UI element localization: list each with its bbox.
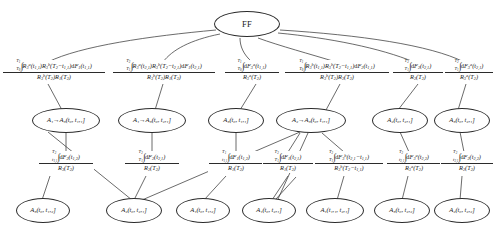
node-a1-to-a3-t0-t11[interactable]: A₁→A₃(t₀, t₁,₁] [32, 108, 100, 133]
edge-label-f1: T1T0∫R3a(t1,1)R3b(T2−t1,1)dF1(t1,1) R3b(… [2, 60, 106, 82]
node-label: A₁→A₃(t₀, t₁,₁] [47, 117, 85, 124]
fraction-denominator: R3a(T2) [387, 164, 441, 173]
node-a3-t0-t12[interactable]: A₃(t₀, t₁,₂] [16, 198, 70, 223]
fraction-denominator: R3(T2) [39, 164, 93, 173]
fraction-numerator: T1T0∫dF3a(t1,1) [225, 60, 279, 73]
edge-label-g2: T2T1∫dF2(t2,1) R2(T2) [124, 151, 180, 173]
fraction-denominator: R2(T2) [125, 164, 179, 173]
edge-g2-to-b2 [134, 176, 146, 200]
node-label: A₂→A₃(t₀, t₁,₁] [292, 117, 330, 124]
edge-n6-to-g7 [460, 132, 464, 152]
fraction-denominator: R2(T2) [441, 164, 493, 173]
edge-g3-to-b3 [204, 176, 226, 200]
node-label: A₂(t₀, t₂,₁] [387, 117, 412, 124]
edge-label-f5: T2T1∫dF2(t2,1) R2(T2) [392, 60, 444, 82]
node-label: A₁(t₀, t₂,₁] [256, 207, 281, 214]
edge-n4-to-g5 [322, 133, 344, 152]
edge-root-to-f6 [280, 30, 464, 62]
node-a3-t0-t11[interactable]: A₃(t₀, t₁,₁] [208, 108, 264, 133]
node-label: A₃(t₀, t₂,₂] [389, 207, 414, 214]
edge-label-g5: T2T1∫dF3b(t2,1−t1,1) R3b(T2−t1,1) [314, 151, 384, 173]
fraction-denominator: R1(T2) [263, 164, 313, 173]
node-label: A₁→A₃(t₀, t₂,₁] [133, 117, 171, 124]
fraction-numerator: T2T1∫dF2(t2,1) [125, 151, 179, 164]
node-root-ff[interactable]: FF [214, 11, 280, 37]
fraction-numerator: T2T1∫dF3a(t2,1) [445, 60, 493, 73]
edge-f6-to-n6 [458, 84, 466, 110]
fraction-denominator: R3b(T2)R1(T2) [113, 73, 215, 82]
fraction-numerator: T1t1,1∫dF1(t1,2) [209, 151, 263, 164]
edge-root-to-f1 [48, 30, 216, 62]
edge-g1-to-b1 [42, 176, 50, 200]
edge-f5-to-n5 [398, 84, 418, 110]
fault-tree-diagram: FF T1T0∫R3a(t1,1)R3b(T2−t1,1)dF1(t1,1) R… [0, 0, 494, 234]
node-a3-t0-t21[interactable]: A₃(t₀, t₂,₁] [434, 108, 490, 133]
fraction-numerator: T1T0∫R3a(t1,1)R3b(T2−t1,1)dF1(t1,1) [3, 60, 105, 73]
node-label: FF [242, 20, 252, 29]
fraction-denominator: R2(T2) [393, 73, 443, 82]
fraction-numerator: T1T0∫R3b(t1,1)R3b(T2−t1,1)dF2(t1,1) [285, 60, 389, 73]
edge-root-to-f2 [163, 34, 220, 62]
node-label: A₁(t₀, t₁,₂] [190, 207, 215, 214]
fraction-denominator: R3b(T2)R2(T2) [285, 73, 389, 82]
node-a2-t0-t21[interactable]: A₂(t₀, t₂,₁] [372, 108, 428, 133]
node-label: A₃(t₀, t₁,₁] [223, 117, 248, 124]
node-a2-t0-t22[interactable]: A₂(t₀, t₂,₂] [434, 198, 490, 223]
edge-g4-cross-b4 [276, 177, 296, 199]
fraction-denominator: R1(T2) [209, 164, 263, 173]
edge-label-g6: T2t2,1∫dF3a(t2,2) R3a(T2) [386, 151, 442, 173]
node-label: A₂(t₀, t₂,₂] [449, 207, 474, 214]
edge-root-to-f4 [258, 38, 336, 62]
fraction-denominator: R3b(T2−t1,1) [315, 164, 383, 173]
node-label: A₃(t₀, t₂,₁] [449, 117, 474, 124]
edge-f4-to-n4 [326, 84, 340, 110]
fraction-numerator: T2T1∫dF2(t2,1) [393, 60, 443, 73]
node-a1-to-a3-t0-t21[interactable]: A₁→A₃(t₀, t₂,₁] [118, 108, 186, 133]
node-a2-t0-t21-bottom[interactable]: A₂(t₀, t₂,₁] [106, 198, 162, 223]
edge-g6-to-b6 [402, 176, 408, 200]
edge-label-g1: T2t1,1∫dF2(t1,2) R3(T2) [38, 151, 94, 173]
edge-f3-to-n3 [240, 84, 256, 110]
fraction-denominator: R3a(T2) [225, 73, 279, 82]
node-a1-t0-t12[interactable]: A₁(t₀, t₁,₂] [176, 198, 230, 223]
fraction-denominator: R3a(T2) [445, 73, 493, 82]
fraction-numerator: T2t2,1∫dF3a(t2,2) [387, 151, 441, 164]
fraction-numerator: T2t2,1∫dF2(t2,2) [441, 151, 493, 164]
node-a1-t0-t21[interactable]: A₁(t₀, t₂,₁] [242, 198, 296, 223]
node-a1-t11-t21[interactable]: A₁(t₁,₁, t₂,₁] [306, 198, 364, 223]
node-label: A₃(t₀, t₁,₂] [30, 207, 55, 214]
edge-label-f6: T2T1∫dF3a(t2,1) R3a(T2) [444, 60, 494, 82]
edge-label-g3: T1t1,1∫dF1(t1,2) R1(T2) [208, 151, 264, 173]
edge-label-f3: T1T0∫dF3a(t1,1) R3a(T2) [224, 60, 280, 82]
edge-label-f4: T1T0∫R3b(t1,1)R3b(T2−t1,1)dF2(t1,1) R3b(… [284, 60, 390, 82]
node-a3-t0-t22[interactable]: A₃(t₀, t₂,₂] [374, 198, 430, 223]
node-label: A₂(t₀, t₂,₁] [121, 207, 146, 214]
edge-f2-to-n2 [155, 84, 163, 110]
edge-g4-to-b4 [272, 176, 288, 200]
fraction-denominator: R3b(T2)R1(T2) [3, 73, 105, 82]
fraction-numerator: T2T1∫R3a(t2,1)R3b(T2−t2,1)dF1(t2,1) [113, 60, 215, 73]
edge-label-f2: T2T1∫R3a(t2,1)R3b(T2−t2,1)dF1(t2,1) R3b(… [112, 60, 216, 82]
node-a2-to-a3-t0-t11[interactable]: A₂→A₃(t₀, t₁,₁] [276, 108, 346, 133]
node-label: A₁(t₁,₁, t₂,₁] [320, 207, 349, 214]
edge-f1-to-n1 [48, 84, 62, 110]
edge-label-g7: T2t2,1∫dF2(t2,2) R2(T2) [440, 151, 494, 173]
edge-g5-to-b5 [337, 176, 344, 200]
fraction-numerator: T2T1∫dF3b(t2,1−t1,1) [315, 151, 383, 164]
edge-n4-to-g4 [288, 133, 300, 152]
fraction-numerator: T2t1,1∫dF2(t1,2) [39, 151, 93, 164]
edge-g7-to-b7 [460, 176, 462, 200]
edge-root-to-f3 [240, 38, 252, 62]
edge-label-g4: T2T1∫dF1(t2,1) R1(T2) [262, 151, 314, 173]
fraction-numerator: T2T1∫dF1(t2,1) [263, 151, 313, 164]
